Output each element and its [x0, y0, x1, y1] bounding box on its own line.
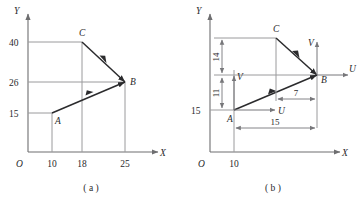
dim-label-7-b: 7 — [294, 88, 299, 98]
caption-b: ( b ) — [265, 183, 281, 194]
y-tick-15-b: 15 — [191, 106, 201, 116]
point-label-c-a: C — [79, 28, 86, 38]
origin-label-a: O — [16, 159, 23, 169]
x-axis-label-a: X — [159, 148, 167, 158]
x-tick-18-a: 18 — [77, 159, 87, 169]
vector-a-to-b-midarrow-a — [86, 90, 94, 95]
y-tick-15-a: 15 — [9, 109, 19, 119]
y-tick-40-a: 40 — [9, 38, 19, 48]
caption-a: ( a ) — [83, 183, 98, 194]
point-label-a-b: A — [226, 114, 233, 124]
origin-label-b: O — [198, 159, 205, 169]
point-label-b-b: B — [321, 75, 327, 85]
dim-label-11-b: 11 — [211, 89, 221, 98]
x-tick-10-a: 10 — [47, 159, 57, 169]
x-axis-label-b: X — [341, 148, 349, 158]
dim-label-14-b: 14 — [211, 52, 221, 62]
panel-a-diagram: Y X O 40 26 15 10 18 25 A B C ( a ) — [0, 0, 182, 199]
panel-b-diagram: V U V U 14 11 7 15 Y X O 15 10 A B C ( b… — [182, 0, 364, 199]
point-label-b-a: B — [130, 77, 136, 87]
figure-root: Y X O 40 26 15 10 18 25 A B C ( a ) — [0, 0, 364, 199]
vector-a-to-b-a — [52, 82, 125, 113]
local-u-label-at-a-b: U — [278, 106, 286, 116]
vector-c-to-b-a — [82, 42, 125, 82]
y-axis-label-b: Y — [196, 6, 203, 16]
local-u-label-at-b-b: U — [349, 64, 357, 74]
x-tick-25-a: 25 — [120, 159, 130, 169]
local-v-label-at-b-b: V — [308, 38, 315, 48]
point-label-c-b: C — [273, 24, 280, 34]
dim-label-15-b: 15 — [271, 117, 281, 127]
local-v-label-at-a-b: V — [237, 72, 244, 82]
y-axis-label-a: Y — [14, 6, 21, 16]
point-label-a-a: A — [54, 116, 61, 126]
y-tick-26-a: 26 — [9, 78, 19, 88]
x-tick-10-b: 10 — [229, 159, 239, 169]
